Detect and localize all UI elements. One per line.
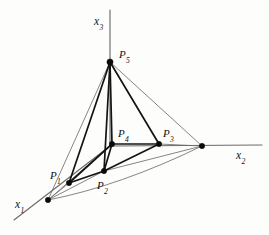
point-label-p5-sub: 5 (126, 56, 130, 65)
axis-label-x3: x3 (94, 16, 103, 28)
point-label-p3: P3 (163, 128, 174, 139)
figure-canvas: x1 x2 x3 P1 P2 P3 P4 P5 (0, 0, 269, 235)
axis-intercept-dot-x1 (45, 197, 50, 202)
axes-group (14, 10, 262, 220)
point-label-p2-base: P (97, 179, 104, 191)
point-label-p1: P1 (50, 170, 61, 181)
point-label-p5: P5 (119, 49, 130, 60)
construction-arc-base (48, 146, 202, 200)
point-label-p1-base: P (50, 169, 57, 181)
point-label-p3-base: P (163, 127, 170, 139)
point-label-p4-base: P (118, 127, 125, 139)
construction-line-p2-to-x2-intercept (104, 146, 202, 171)
point-label-p4-sub: 4 (125, 135, 129, 144)
edge-p2-p3 (104, 144, 159, 171)
axis-label-x2-sub: 2 (241, 157, 245, 166)
axis-intercept-dot-x2 (199, 143, 204, 148)
point-label-p3-sub: 3 (170, 135, 174, 144)
point-label-p5-base: P (119, 48, 126, 60)
axis-label-x3-sub: 3 (99, 23, 103, 32)
vertex-dot-p5 (107, 59, 113, 65)
point-label-p2-sub: 2 (104, 187, 108, 196)
vertex-dot-p3 (156, 141, 161, 146)
vertex-dot-p1 (66, 180, 71, 185)
vertex-dot-p4 (109, 141, 114, 146)
axis-x1-line (14, 146, 110, 220)
axis-label-x1: x1 (15, 199, 24, 211)
diagram-svg (0, 0, 269, 235)
axis-label-x2: x2 (236, 150, 245, 162)
point-label-p1-sub: 1 (57, 177, 61, 186)
axis-label-x1-sub: 1 (20, 206, 24, 215)
vertex-dot-p2 (101, 168, 106, 173)
point-label-p4: P4 (118, 128, 129, 139)
point-label-p2: P2 (97, 180, 108, 191)
